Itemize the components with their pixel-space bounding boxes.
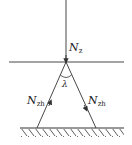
angle-label: λ bbox=[61, 79, 68, 89]
ground-hatching bbox=[21, 129, 124, 137]
left-strut-arrow-icon bbox=[49, 102, 51, 106]
left-strut-line bbox=[37, 62, 66, 128]
angle-arc bbox=[60, 75, 71, 78]
left-strut-force-label: Nzh bbox=[26, 94, 45, 108]
vertical-force-label: Nz bbox=[68, 41, 83, 55]
right-strut-force-label: Nzh bbox=[87, 94, 106, 108]
force-diagram: Nz λ Nzh Nzh bbox=[0, 0, 132, 145]
